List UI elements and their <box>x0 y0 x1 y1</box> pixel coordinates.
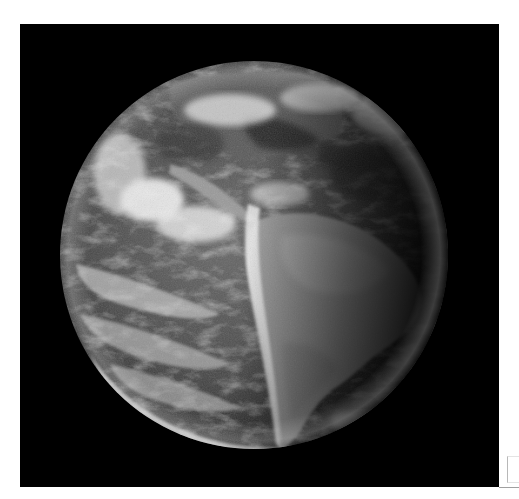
photo-frame: Full-disk satellite view of Earth center… <box>20 24 499 487</box>
earth-globe-image <box>20 24 499 487</box>
bottom-rule <box>499 487 519 488</box>
edge-marker <box>507 456 519 483</box>
page: Full-disk satellite view of Earth center… <box>0 0 519 499</box>
